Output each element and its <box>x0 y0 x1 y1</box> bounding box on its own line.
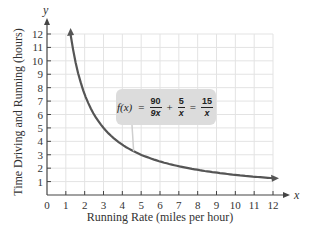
y-tick-label: 4 <box>38 135 44 147</box>
fraction-term2: 5 x <box>178 97 185 118</box>
y-tick-label: 1 <box>38 176 44 188</box>
term2-denominator: x <box>179 108 184 118</box>
y-tick-label: 12 <box>32 28 43 40</box>
function-annotation-box: f(x) = 90 9x + 5 x = 15 x <box>116 89 216 125</box>
term2-numerator: 5 <box>178 97 185 108</box>
curve-arrow-right-icon <box>271 175 279 182</box>
x-axis-variable: x <box>293 188 300 202</box>
function-name: f(x) <box>117 101 132 113</box>
x-axis-title: Running Rate (miles per hour) <box>87 210 234 224</box>
y-axis-variable: y <box>42 3 49 17</box>
term1-numerator: 90 <box>150 97 162 108</box>
result-denominator: x <box>204 108 209 118</box>
plus-sign: + <box>167 101 173 113</box>
curve-arrow-top-icon <box>67 28 74 36</box>
y-tick-label: 6 <box>38 109 44 121</box>
x-axis-ticks: 0123456789101112 <box>44 191 278 211</box>
y-tick-label: 7 <box>38 95 44 107</box>
y-tick-label: 10 <box>32 55 44 67</box>
term1-denominator: 9x <box>151 108 161 118</box>
y-tick-label: 11 <box>32 41 43 53</box>
y-axis-ticks: 123456789101112 <box>32 28 51 188</box>
y-axis-title: Time Driving and Running (hours) <box>11 28 25 196</box>
x-tick-label: 0 <box>44 199 50 211</box>
fraction-result: 15 x <box>201 97 213 118</box>
x-tick-label: 11 <box>249 199 260 211</box>
fraction-term1: 90 9x <box>150 97 162 118</box>
y-tick-label: 9 <box>38 68 44 80</box>
annotation-leader-line <box>132 125 134 151</box>
equals-sign: = <box>138 101 144 113</box>
x-tick-label: 1 <box>63 199 69 211</box>
result-numerator: 15 <box>201 97 213 108</box>
equals-sign-2: = <box>190 101 196 113</box>
y-tick-label: 5 <box>38 122 44 134</box>
y-tick-label: 2 <box>38 162 44 174</box>
y-tick-label: 3 <box>38 149 44 161</box>
x-tick-label: 12 <box>268 199 279 211</box>
y-tick-label: 8 <box>38 82 44 94</box>
